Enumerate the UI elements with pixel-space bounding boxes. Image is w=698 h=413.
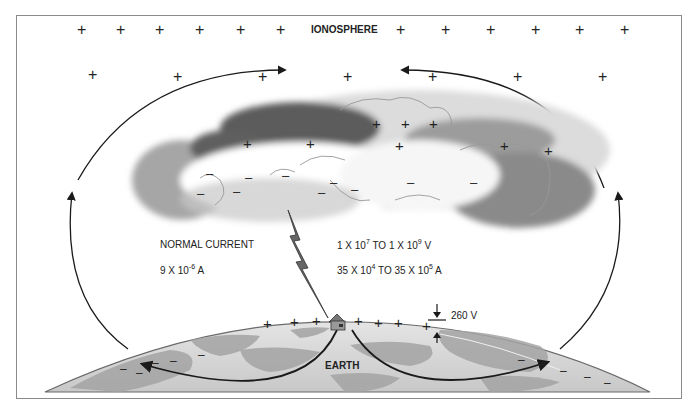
negative-charge: –	[136, 366, 143, 380]
positive-charge: +	[372, 115, 381, 132]
positive-charge: +	[598, 68, 607, 86]
negative-charge: –	[152, 356, 159, 370]
positive-charge: +	[620, 21, 629, 39]
surface-potential-label: 260 V	[451, 310, 477, 321]
positive-charge: +	[173, 68, 182, 86]
negative-charge: –	[170, 354, 177, 368]
positive-charge: +	[394, 314, 403, 331]
positive-charge: +	[513, 68, 522, 86]
positive-charge: +	[155, 21, 164, 39]
negative-charge: –	[560, 364, 567, 378]
positive-charge: +	[116, 21, 125, 39]
negative-charge: –	[120, 362, 127, 376]
negative-charge: –	[470, 175, 477, 190]
positive-charge: +	[395, 137, 404, 154]
positive-charge: +	[290, 313, 299, 330]
positive-charge: +	[306, 135, 315, 152]
positive-charge: +	[422, 317, 431, 334]
normal-current-value: 9 X 10-6 A	[160, 265, 204, 276]
negative-charge: –	[604, 376, 611, 390]
positive-charge: +	[312, 312, 321, 329]
positive-charge: +	[343, 68, 352, 86]
positive-charge: +	[486, 21, 495, 39]
ionosphere-label: IONOSPHERE	[311, 24, 378, 35]
negative-charge: –	[538, 357, 545, 371]
negative-charge: –	[407, 175, 414, 190]
positive-charge: +	[258, 68, 267, 86]
negative-charge: –	[330, 175, 337, 190]
positive-charge: +	[531, 21, 540, 39]
positive-charge: +	[236, 21, 245, 39]
negative-charge: –	[198, 348, 205, 362]
lower-left-arc-arrow	[70, 193, 128, 349]
positive-charge: +	[374, 314, 383, 331]
negative-charge: –	[206, 166, 213, 181]
positive-charge: +	[428, 68, 437, 86]
positive-charge: +	[354, 312, 363, 329]
negative-charge: –	[197, 186, 204, 201]
negative-charge: –	[318, 185, 325, 200]
positive-charge: +	[429, 115, 438, 132]
positive-charge: +	[195, 21, 204, 39]
normal-current-label: NORMAL CURRENT	[160, 239, 254, 250]
positive-charge: +	[544, 142, 553, 159]
positive-charge: +	[276, 21, 285, 39]
negative-charge: –	[518, 353, 525, 367]
lightning-bolt-icon	[288, 210, 328, 318]
positive-charge: +	[88, 66, 97, 84]
positive-charge: +	[401, 115, 410, 132]
earth-label: EARTH	[325, 360, 359, 371]
negative-charge: –	[584, 370, 591, 384]
lightning-current-value: 35 X 104 TO 35 X 105 A	[337, 265, 442, 276]
earth-globe	[45, 322, 650, 392]
negative-charge: –	[233, 184, 240, 199]
positive-charge: +	[77, 21, 86, 39]
positive-charge: +	[441, 21, 450, 39]
house-icon	[329, 314, 345, 330]
negative-charge: –	[245, 170, 252, 185]
positive-charge: +	[396, 21, 405, 39]
positive-charge: +	[500, 137, 509, 154]
positive-charge: +	[263, 315, 272, 332]
diagram-canvas	[0, 0, 698, 413]
negative-charge: –	[282, 168, 289, 183]
positive-charge: +	[575, 21, 584, 39]
lightning-voltage-value: 1 X 107 TO 1 X 109 V	[337, 240, 431, 251]
thundercloud	[132, 90, 610, 228]
negative-charge: –	[351, 182, 358, 197]
positive-charge: +	[243, 135, 252, 152]
